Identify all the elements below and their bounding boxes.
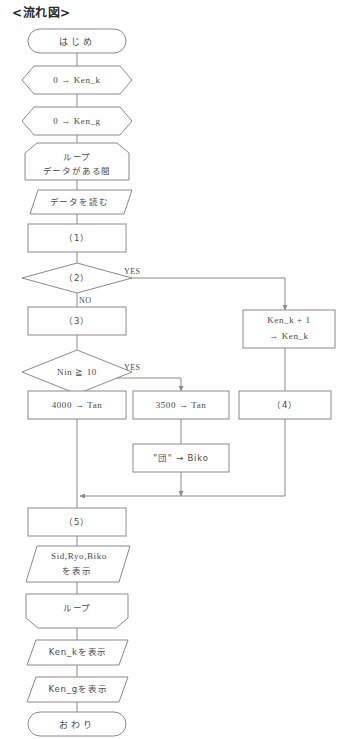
node-read-data[interactable]: データを読む [30, 190, 132, 214]
tan-3500-label: 3500 → Tan [156, 400, 207, 410]
connector-decnin-yes-to-tan3500 [113, 378, 181, 391]
node-biko-dan[interactable]: "団" → Biko [133, 444, 229, 472]
end-label: おわり [59, 720, 95, 730]
node-init-ken-k[interactable]: 0 → Ken_k [22, 66, 132, 94]
node-proc-4[interactable]: （4） [239, 391, 331, 419]
node-tan-3500[interactable]: 3500 → Tan [133, 391, 229, 419]
ken-k-increment-line2: → Ken_k [269, 331, 308, 341]
node-proc-5[interactable]: （5） [28, 508, 126, 536]
decision-2-yes-label: YES [124, 267, 140, 276]
init-ken-g-label: 0 → Ken_g [53, 116, 100, 126]
proc-3-label: （3） [64, 316, 90, 326]
tan-4000-label: 4000 → Tan [52, 400, 103, 410]
connector-dec2-yes-to-kenk-inc [121, 278, 285, 310]
proc-5-label: （5） [64, 517, 90, 527]
proc-4-label: （4） [272, 400, 298, 410]
node-proc-1[interactable]: （1） [28, 224, 126, 252]
flowchart-page: <流れ図> [0, 0, 342, 739]
node-init-ken-g[interactable]: 0 → Ken_g [22, 107, 132, 135]
node-tan-4000[interactable]: 4000 → Tan [28, 391, 126, 419]
decision-2-label: （2） [64, 273, 90, 283]
loop-start-line2: データがある間 [43, 166, 112, 176]
loop-end-label: ループ [63, 603, 91, 613]
decision-nin-label: Nin ≧ 10 [57, 367, 97, 377]
node-print-ken-k[interactable]: Ken_kを表示 [27, 640, 128, 665]
read-data-label: データを読む [50, 197, 109, 207]
node-loop-end[interactable]: ループ [26, 594, 128, 628]
loop-start-line1: ループ [63, 152, 91, 162]
node-start[interactable]: はじめ [28, 29, 126, 53]
node-print-sid[interactable]: Sid,Ryo,Biko を表示 [26, 546, 130, 582]
node-proc-3[interactable]: （3） [28, 307, 126, 335]
print-sid-line1: Sid,Ryo,Biko [51, 551, 107, 561]
start-label: はじめ [59, 37, 95, 47]
node-end[interactable]: おわり [28, 712, 126, 736]
node-ken-k-increment[interactable]: Ken_k + 1 → Ken_k [243, 310, 335, 348]
decision-nin-yes-label: YES [124, 363, 140, 372]
proc-1-label: （1） [64, 233, 90, 243]
print-ken-g-label: Ken_gを表示 [49, 684, 108, 694]
print-sid-line2: を表示 [62, 566, 91, 576]
ken-k-increment-line1: Ken_k + 1 [267, 315, 310, 325]
node-loop-start[interactable]: ループ データがある間 [25, 143, 129, 180]
node-decision-2[interactable]: （2） YES NO [22, 263, 140, 305]
flowchart-canvas: はじめ 0 → Ken_k 0 → Ken_g ループ データがある間 データを… [0, 0, 342, 739]
print-ken-k-label: Ken_kを表示 [49, 647, 107, 657]
decision-2-no-label: NO [79, 296, 91, 305]
init-ken-k-label: 0 → Ken_k [53, 75, 100, 85]
node-print-ken-g[interactable]: Ken_gを表示 [27, 677, 128, 702]
biko-dan-label: "団" → Biko [153, 453, 208, 463]
